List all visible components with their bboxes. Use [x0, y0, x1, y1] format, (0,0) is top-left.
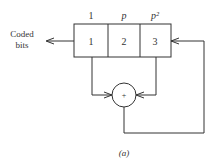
shift-register-diagram: 1 p p² 1 2 3 Coded bits + (a)	[0, 0, 216, 162]
header-label-1: 1	[89, 10, 94, 21]
output-label-coded: Coded	[10, 29, 34, 39]
output-arrow	[46, 38, 74, 44]
adder-symbol: +	[122, 91, 127, 100]
cell-2: 2	[122, 36, 127, 47]
figure-caption: (a)	[119, 148, 130, 158]
output-label-bits: bits	[15, 40, 29, 50]
cell-1: 1	[89, 36, 94, 47]
header-label-p2: p²	[150, 10, 160, 21]
cell-3: 3	[153, 36, 158, 47]
header-label-p: p	[121, 10, 127, 21]
feedback-line	[124, 38, 204, 133]
